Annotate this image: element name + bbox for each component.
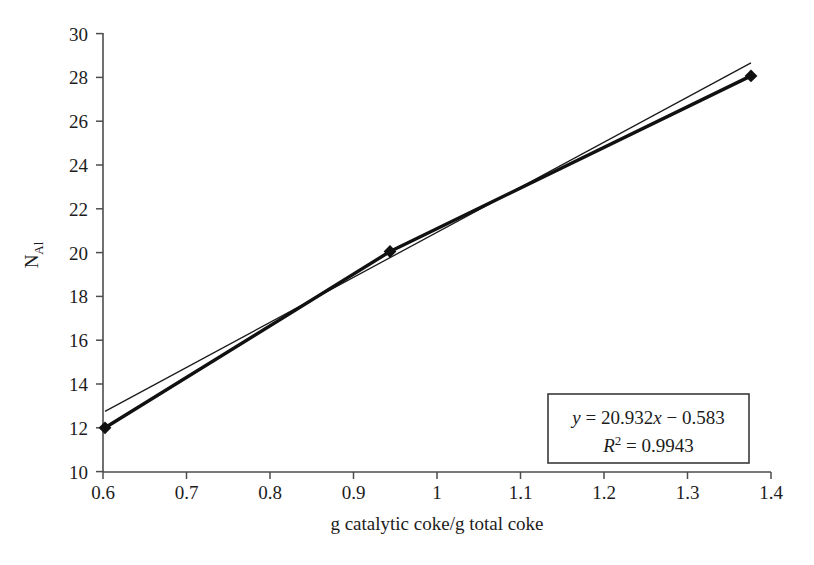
x-tick-label: 1.1 [509, 482, 533, 503]
x-tick-label: 0.9 [342, 482, 366, 503]
x-tick-label: 1.2 [592, 482, 616, 503]
equation-slope: = 20.932 [581, 407, 653, 428]
y-tick-label: 12 [69, 418, 88, 439]
chart-background [0, 0, 814, 565]
x-tick-label: 1.4 [759, 482, 783, 503]
x-axis-title: g catalytic coke/g total coke [330, 513, 543, 534]
x-tick-label: 1 [432, 482, 442, 503]
x-tick-label: 1.3 [676, 482, 700, 503]
y-tick-label: 18 [69, 286, 88, 307]
y-tick-label: 16 [69, 330, 88, 351]
equation-y-var: y [570, 407, 581, 428]
y-axis-title-main: N [21, 254, 42, 268]
equation-line-1: y = 20.932x − 0.583 [570, 407, 724, 428]
y-tick-label: 24 [69, 155, 89, 176]
regression-equation-box: y = 20.932x − 0.583 R2 = 0.9943 [548, 394, 749, 463]
chart-page: 30 28 26 24 22 20 18 16 14 12 10 0.6 0.7… [0, 0, 814, 565]
y-tick-label: 10 [69, 462, 88, 483]
equation-intercept: − 0.583 [662, 407, 725, 428]
y-tick-label: 26 [69, 111, 88, 132]
y-axis-title-subscript: Al [31, 241, 46, 254]
r-squared-symbol: R [602, 435, 615, 456]
y-tick-label: 22 [69, 199, 88, 220]
y-tick-label: 28 [69, 67, 88, 88]
r-squared-value: = 0.9943 [621, 435, 693, 456]
x-tick-label: 0.8 [258, 482, 282, 503]
x-tick-label: 0.7 [175, 482, 199, 503]
x-tick-label: 0.6 [91, 482, 115, 503]
y-tick-label: 14 [69, 374, 89, 395]
y-tick-label: 30 [69, 24, 88, 45]
scatter-line-chart: 30 28 26 24 22 20 18 16 14 12 10 0.6 0.7… [0, 0, 814, 565]
y-tick-label: 20 [69, 243, 88, 264]
